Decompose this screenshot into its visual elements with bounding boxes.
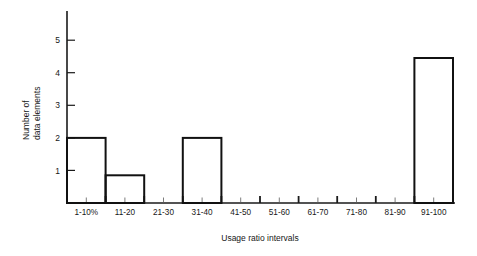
y-axis-title-line1: Number of bbox=[21, 100, 31, 140]
x-tick-label-3: 21-30 bbox=[153, 208, 174, 217]
x-tick-label-1: 1-10% bbox=[74, 208, 98, 217]
x-tick-label-7: 61-70 bbox=[307, 208, 328, 217]
y-tick-label-4: 4 bbox=[55, 68, 60, 78]
x-axis-title: Usage ratio intervals bbox=[221, 233, 298, 243]
x-tick-label-8: 71-80 bbox=[346, 208, 367, 217]
chart-svg: 1 2 3 4 5 Number of data elements bbox=[0, 0, 477, 256]
y-tick-label-5: 5 bbox=[55, 35, 60, 45]
chart-background bbox=[0, 0, 477, 256]
x-tick-label-4: 31-40 bbox=[192, 208, 213, 217]
x-tick-label-10: 91-100 bbox=[421, 208, 447, 217]
x-tick-label-2: 11-20 bbox=[115, 208, 136, 217]
x-tick-label-5: 41-50 bbox=[230, 208, 251, 217]
y-tick-label-1: 1 bbox=[55, 166, 60, 176]
x-tick-label-6: 51-60 bbox=[269, 208, 290, 217]
y-tick-label-2: 2 bbox=[55, 133, 60, 143]
y-axis-title-line2: data elements bbox=[32, 87, 42, 140]
x-tick-label-9: 81-90 bbox=[385, 208, 406, 217]
y-tick-label-3: 3 bbox=[55, 100, 60, 110]
histogram-chart: 1 2 3 4 5 Number of data elements bbox=[0, 0, 477, 256]
